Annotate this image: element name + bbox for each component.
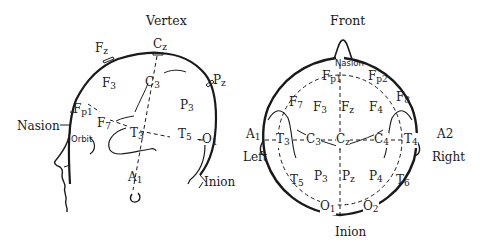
side-orbit-label: Orbit	[71, 133, 92, 145]
top-nasion-label: Nasion	[335, 57, 364, 69]
side-view-title: Vertex	[146, 15, 187, 27]
top-view-title: Front	[330, 15, 365, 27]
electrode-top-p4: P4	[369, 170, 383, 185]
electrode-side-a1: A1	[128, 171, 142, 186]
electrode-side-t3: T3	[130, 127, 144, 142]
electrode-side-f7: F7	[97, 117, 111, 132]
electrode-top-f4: F4	[369, 101, 383, 116]
electrode-top-fz: Fz	[341, 101, 354, 116]
electrode-side-t5: T5	[178, 128, 192, 143]
electrode-top-t4: T4	[404, 133, 418, 148]
electrode-top-t6: T6	[396, 174, 410, 189]
electrode-top-t5: T5	[290, 174, 304, 189]
electrode-side-pz: Pz	[213, 74, 226, 89]
electrode-top-f3: F3	[313, 101, 327, 116]
side-dashed-lines	[70, 56, 206, 190]
electrode-top-fp1: Fp1	[322, 70, 342, 85]
electrode-side-fp1: Fp1	[73, 103, 93, 118]
electrode-top-p3: P3	[314, 170, 328, 185]
electrode-top-f8: F8	[396, 91, 410, 106]
electrode-top-o2: O2	[363, 200, 379, 215]
top-left-label: Left	[243, 151, 267, 163]
electrode-top-fp2: Fp2	[368, 70, 388, 85]
electrode-top-c3: C3	[306, 133, 321, 148]
electrode-top-pz: Pz	[342, 170, 355, 185]
side-inion-label: Inion	[204, 176, 235, 188]
electrode-top-t3: T3	[276, 133, 290, 148]
electrode-top-c4: C4	[374, 133, 389, 148]
side-skull-outline	[69, 53, 216, 184]
face-profile	[55, 125, 71, 212]
electrode-top-a2: A2	[437, 128, 453, 140]
electrode-side-c3: C3	[145, 76, 160, 91]
electrode-side-fz: Fz	[95, 42, 108, 57]
electrode-top-o1: O1	[320, 200, 336, 215]
side-nasion-label: Nasion	[17, 120, 60, 132]
electrode-side-cz: Cz	[153, 38, 167, 53]
electrode-side-o1: -O1	[197, 133, 218, 148]
electrode-top-cz: Cz	[336, 133, 350, 148]
electrode-side-p3: P3	[180, 99, 194, 114]
electrode-side-f3: F3	[102, 77, 116, 92]
top-inion-label: Inion	[335, 226, 366, 238]
top-right-label: Right	[432, 151, 465, 163]
electrode-top-a1: A1	[246, 128, 260, 143]
electrode-top-f7: F7	[289, 96, 303, 111]
eeg-diagram	[0, 0, 481, 249]
